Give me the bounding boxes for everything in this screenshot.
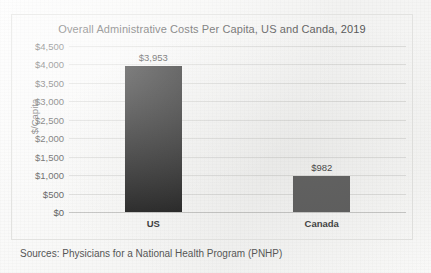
gridline: [69, 64, 406, 65]
axis-baseline: [69, 212, 406, 213]
gridline: [69, 101, 406, 102]
y-axis-tick-label: $2,000: [35, 133, 64, 144]
bar-value-label: $3,953: [139, 52, 168, 63]
bar-group: $3,953US: [125, 46, 182, 212]
bar[interactable]: [293, 176, 350, 212]
y-axis-tick-label: $0: [53, 207, 64, 218]
gridline: [69, 120, 406, 121]
y-axis-tick-label: $4,500: [35, 41, 64, 52]
x-axis-category-label: Canada: [305, 218, 339, 229]
gridline: [69, 46, 406, 47]
y-axis-tick-label: $4,000: [35, 59, 64, 70]
chart-title: Overall Administrative Costs Per Capita,…: [12, 23, 412, 35]
bar-value-label: $982: [311, 162, 332, 173]
bar[interactable]: [125, 66, 182, 212]
bar-group: $982Canada: [293, 46, 350, 212]
x-axis-category-label: US: [147, 218, 160, 229]
y-axis-tick-label: $3,000: [35, 96, 64, 107]
y-axis-tick-label: $1,000: [35, 170, 64, 181]
gridline: [69, 83, 406, 84]
gridline: [69, 157, 406, 158]
gridline: [69, 194, 406, 195]
gridline: [69, 175, 406, 176]
y-axis-tick-label: $500: [43, 188, 64, 199]
scanned-page-background: Overall Administrative Costs Per Capita,…: [0, 0, 431, 273]
y-axis-tick-label: $2,500: [35, 114, 64, 125]
source-note: Sources: Physicians for a National Healt…: [20, 248, 282, 259]
plot-area: $4,500$4,000$3,500$3,000$2,500$2,000$1,5…: [69, 46, 406, 212]
chart-container: Overall Administrative Costs Per Capita,…: [11, 14, 413, 240]
y-axis-tick-label: $1,500: [35, 151, 64, 162]
gridline: [69, 138, 406, 139]
y-axis-tick-label: $3,500: [35, 77, 64, 88]
